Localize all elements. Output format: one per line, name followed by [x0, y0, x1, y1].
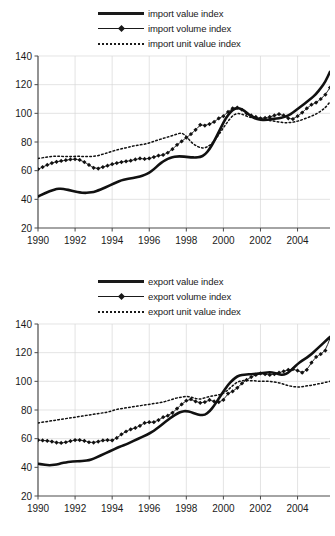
axis-ticks: 2040608010012014019901992199419961998200…: [15, 51, 309, 246]
series-marker: [110, 162, 114, 166]
series-marker: [91, 166, 95, 170]
series-marker: [133, 157, 137, 161]
series-marker: [129, 159, 133, 163]
export-index-figure: export value index export volume index e…: [0, 268, 335, 536]
y-tick-label: 40: [21, 194, 33, 205]
series-marker: [87, 440, 91, 444]
series-marker: [203, 123, 207, 127]
series-marker: [105, 164, 109, 168]
series-marker: [142, 421, 146, 425]
series-marker: [64, 158, 68, 162]
y-tick-label: 100: [15, 376, 32, 387]
x-tick-label: 1996: [138, 235, 161, 246]
series-marker: [152, 155, 156, 159]
y-tick-label: 120: [15, 79, 32, 90]
series-marker: [115, 161, 119, 165]
series-marker: [54, 440, 58, 444]
series-marker: [166, 414, 170, 418]
series-marker: [193, 399, 197, 403]
series-marker: [147, 156, 151, 160]
series-line-import-unit-value-index: [38, 102, 330, 159]
legend-item-import-value: import value index: [0, 6, 335, 21]
series-marker: [124, 429, 128, 433]
import-plot-area: 2040608010012014019901992199419961998200…: [0, 50, 335, 268]
y-tick-label: 60: [21, 433, 33, 444]
series-marker: [277, 112, 281, 116]
dotted-line-key: [98, 306, 144, 318]
legend-item-import-volume: import volume index: [0, 21, 335, 36]
x-tick-label: 2002: [249, 235, 272, 246]
series-marker: [50, 161, 54, 165]
series-marker: [207, 398, 211, 402]
x-tick-label: 1994: [101, 235, 124, 246]
series-line-export-unit-value-index: [38, 381, 330, 423]
series-marker: [87, 163, 91, 167]
legend-item-export-value: export value index: [0, 274, 335, 289]
series-marker: [59, 441, 63, 445]
legend-label: import volume index: [148, 23, 231, 34]
series-line-export-value-index: [38, 337, 330, 465]
thick-solid-line-key: [98, 8, 144, 20]
series-marker: [101, 165, 105, 169]
series-marker: [295, 368, 299, 372]
series-marker: [82, 160, 86, 164]
series-marker: [147, 420, 151, 424]
series-marker: [119, 160, 123, 164]
export-line-chart: 2040608010012014019901992199419961998200…: [0, 318, 335, 536]
legend-item-export-volume: export volume index: [0, 289, 335, 304]
y-tick-label: 100: [15, 108, 32, 119]
series-marker: [138, 156, 142, 160]
series-marker: [64, 440, 68, 444]
dotted-line-key: [98, 38, 144, 50]
series-marker: [272, 113, 276, 117]
x-tick-label: 1998: [175, 235, 198, 246]
y-tick-label: 140: [15, 51, 32, 62]
series-marker: [68, 439, 72, 443]
x-tick-label: 1996: [138, 503, 161, 514]
series-line-export-volume-index: [38, 338, 330, 443]
series-marker: [41, 165, 45, 169]
y-tick-label: 60: [21, 165, 33, 176]
series-marker: [152, 420, 156, 424]
series-marker: [156, 153, 160, 157]
series-marker: [54, 160, 58, 164]
series-marker: [156, 418, 160, 422]
y-tick-label: 120: [15, 347, 32, 358]
series-marker: [129, 427, 133, 431]
y-tick-label: 20: [21, 223, 33, 234]
series-marker: [138, 424, 142, 428]
series-marker: [207, 122, 211, 126]
series-marker: [161, 415, 165, 419]
series-marker: [50, 439, 54, 443]
series-marker: [45, 439, 49, 443]
x-tick-label: 1990: [27, 235, 50, 246]
series-marker: [305, 368, 309, 372]
series-marker: [68, 157, 72, 161]
series-marker: [198, 401, 202, 405]
grid-lines: [38, 56, 330, 228]
series-marker: [73, 157, 77, 161]
series-marker: [96, 166, 100, 170]
legend-label: export unit value index: [148, 306, 241, 317]
series-marker: [124, 159, 128, 163]
x-tick-label: 2004: [286, 503, 309, 514]
y-tick-label: 80: [21, 137, 33, 148]
legend-label: import value index: [148, 8, 223, 19]
series-markers-import-volume-index: [36, 85, 332, 171]
x-tick-label: 1990: [27, 503, 50, 514]
series-marker: [96, 439, 100, 443]
y-tick-label: 80: [21, 405, 33, 416]
import-line-chart: 2040608010012014019901992199419961998200…: [0, 50, 335, 268]
import-index-figure: import value index import volume index i…: [0, 0, 335, 268]
series-marker: [291, 117, 295, 121]
x-tick-label: 1992: [64, 235, 87, 246]
import-legend: import value index import volume index i…: [0, 6, 335, 52]
y-tick-label: 140: [15, 319, 32, 330]
series-marker: [142, 157, 146, 161]
series-marker: [59, 159, 63, 163]
series-marker: [133, 426, 137, 430]
x-tick-label: 2000: [212, 235, 235, 246]
y-tick-label: 40: [21, 462, 33, 473]
series-marker: [91, 440, 95, 444]
legend-label: export value index: [148, 276, 223, 287]
